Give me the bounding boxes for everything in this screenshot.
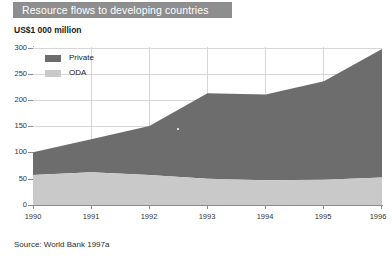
x-tick-mark-1996: [381, 205, 382, 209]
x-tick-mark-1992: [149, 205, 150, 209]
y-tick-150: 150: [14, 122, 27, 130]
private-swatch-icon: [45, 55, 61, 62]
y-tick-100: 100: [14, 148, 27, 156]
x-tick-1995: 1995: [303, 212, 343, 221]
source-note: Source: World Bank 1997a: [14, 240, 109, 249]
y-tick-0: 0: [23, 201, 27, 209]
legend-label-oda: ODA: [69, 67, 86, 79]
data-marker-dot: [177, 128, 179, 130]
x-tick-1992: 1992: [129, 212, 169, 221]
x-tick-1994: 1994: [245, 212, 285, 221]
x-tick-mark-1993: [207, 205, 208, 209]
oda-swatch-icon: [45, 70, 61, 77]
page-title: Resource flows to developing countries: [22, 4, 208, 16]
x-tick-mark-1991: [91, 205, 92, 209]
title-banner: Resource flows to developing countries: [13, 2, 232, 18]
plot-area: Private ODA: [33, 47, 382, 205]
y-tick-250: 250: [14, 70, 27, 78]
legend-label-private: Private: [69, 52, 94, 64]
x-tick-1991: 1991: [71, 212, 111, 221]
chart-page: Resource flows to developing countries U…: [0, 0, 392, 258]
y-tick-50: 50: [19, 175, 27, 183]
x-tick-mark-1990: [33, 205, 34, 209]
x-tick-mark-1994: [265, 205, 266, 209]
y-tick-300: 300: [14, 44, 27, 52]
x-tick-mark-1995: [323, 205, 324, 209]
x-tick-1993: 1993: [187, 212, 227, 221]
x-tick-1990: 1990: [13, 212, 53, 221]
y-tick-200: 200: [14, 96, 27, 104]
x-tick-1996: 1996: [358, 212, 392, 221]
